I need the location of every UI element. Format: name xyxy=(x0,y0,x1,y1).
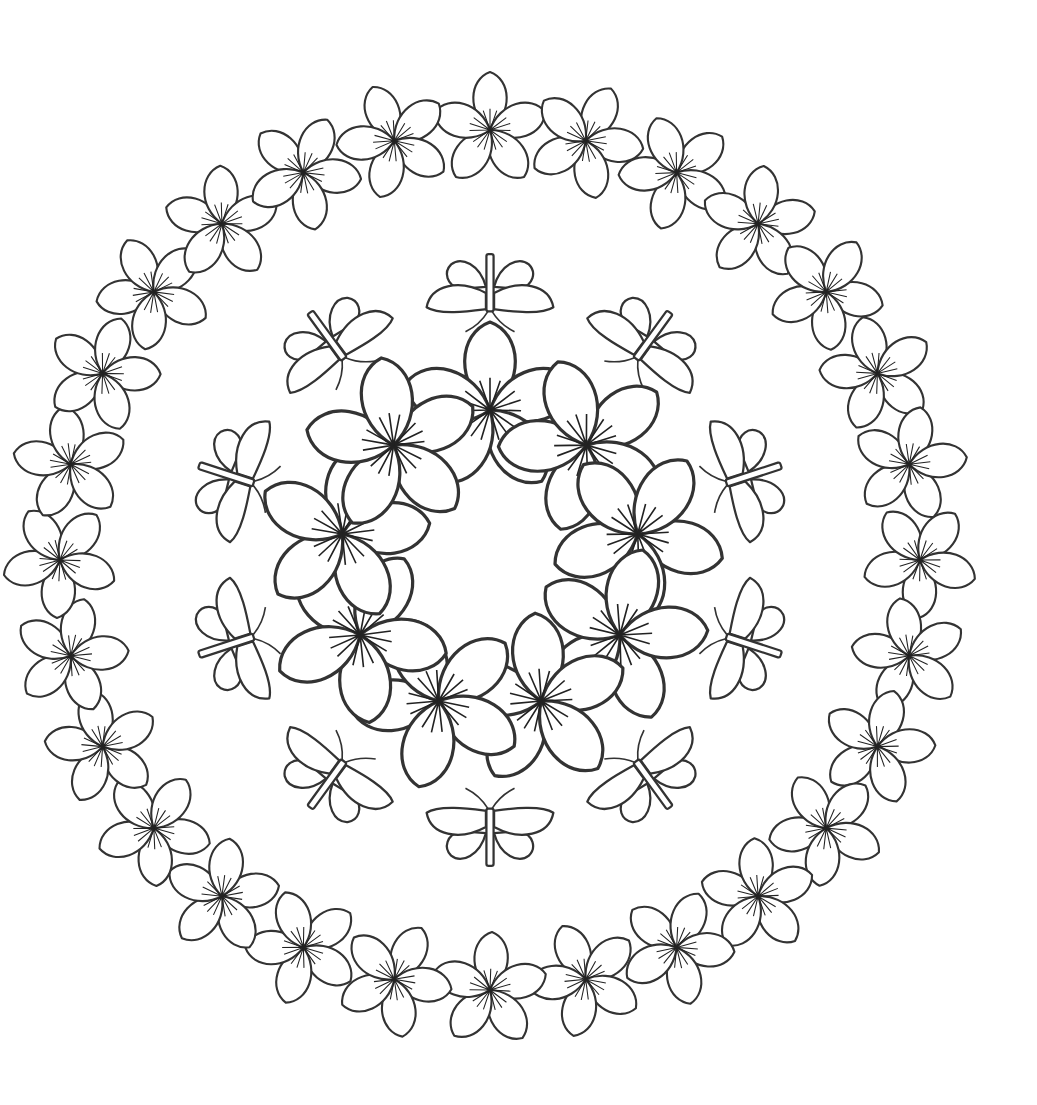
flower xyxy=(0,500,123,621)
butterfly xyxy=(427,788,554,866)
flower xyxy=(430,72,551,187)
butterfly xyxy=(180,405,293,550)
mandala-svg xyxy=(0,0,1037,1105)
mandala-artwork xyxy=(0,0,1037,1105)
outer-flower-ring xyxy=(0,62,989,1057)
butterfly xyxy=(427,254,554,332)
butterfly xyxy=(687,570,800,715)
flower xyxy=(0,580,149,733)
flower xyxy=(859,502,982,619)
flower xyxy=(507,62,666,218)
